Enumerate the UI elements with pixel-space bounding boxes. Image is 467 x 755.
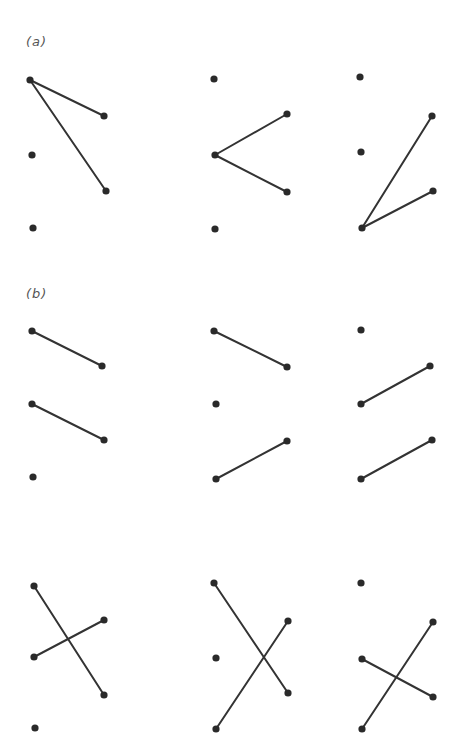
edge-line <box>30 80 104 116</box>
vertex-dot <box>28 327 35 334</box>
vertex-dot <box>358 655 365 662</box>
vertex-dot <box>429 187 436 194</box>
bipartite-diagram-b-5 <box>210 579 291 732</box>
vertex-dot <box>100 616 107 623</box>
vertex-dot <box>212 654 219 661</box>
edge-line <box>216 441 287 479</box>
edge-line <box>32 404 104 440</box>
edge-line <box>214 331 287 367</box>
edge-line <box>362 622 433 729</box>
vertex-dot <box>357 326 364 333</box>
graph-diagram-canvas <box>0 0 467 755</box>
vertex-dot <box>28 151 35 158</box>
vertex-dot <box>26 76 33 83</box>
vertex-dot <box>283 437 290 444</box>
vertex-dot <box>100 436 107 443</box>
vertex-dot <box>31 724 38 731</box>
vertex-dot <box>100 691 107 698</box>
vertex-dot <box>283 188 290 195</box>
bipartite-diagram-a-2 <box>210 75 290 232</box>
vertex-dot <box>426 362 433 369</box>
vertex-dot <box>429 618 436 625</box>
edge-line <box>215 114 287 155</box>
vertex-dot <box>356 73 363 80</box>
edge-line <box>30 80 106 191</box>
edge-line <box>361 366 430 404</box>
vertex-dot <box>98 362 105 369</box>
vertex-dot <box>30 653 37 660</box>
vertex-dot <box>212 400 219 407</box>
bipartite-diagram-b-3 <box>357 326 435 482</box>
vertex-dot <box>358 224 365 231</box>
vertex-dot <box>284 689 291 696</box>
vertex-dot <box>358 725 365 732</box>
edge-line <box>362 116 432 228</box>
vertex-dot <box>283 363 290 370</box>
edge-line <box>361 440 432 479</box>
bipartite-diagram-b-6 <box>357 579 436 732</box>
vertex-dot <box>212 725 219 732</box>
edge-line <box>362 659 433 697</box>
vertex-dot <box>100 112 107 119</box>
vertex-dot <box>102 187 109 194</box>
edge-line <box>215 155 287 192</box>
vertex-dot <box>283 110 290 117</box>
vertex-dot <box>211 151 218 158</box>
bipartite-diagram-a-1 <box>26 76 109 231</box>
edge-line <box>32 331 102 366</box>
vertex-dot <box>210 579 217 586</box>
vertex-dot <box>357 400 364 407</box>
bipartite-diagram-b-2 <box>210 327 290 482</box>
vertex-dot <box>28 400 35 407</box>
vertex-dot <box>357 579 364 586</box>
vertex-dot <box>428 112 435 119</box>
bipartite-diagram-b-4 <box>30 582 107 731</box>
edge-line <box>216 621 288 729</box>
vertex-dot <box>428 436 435 443</box>
vertex-dot <box>210 327 217 334</box>
bipartite-diagram-b-1 <box>28 327 107 480</box>
vertex-dot <box>284 617 291 624</box>
bipartite-diagram-a-3 <box>356 73 436 231</box>
vertex-dot <box>29 473 36 480</box>
vertex-dot <box>210 75 217 82</box>
vertex-dot <box>357 475 364 482</box>
edge-line <box>34 620 104 657</box>
vertex-dot <box>212 475 219 482</box>
edge-line <box>34 586 104 695</box>
vertex-dot <box>30 582 37 589</box>
vertex-dot <box>357 148 364 155</box>
vertex-dot <box>429 693 436 700</box>
vertex-dot <box>29 224 36 231</box>
vertex-dot <box>211 225 218 232</box>
